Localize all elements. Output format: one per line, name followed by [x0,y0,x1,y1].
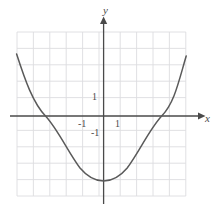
x-tick-label-negative-one: -1 [78,119,86,129]
x-tick-label-positive-one: 1 [115,119,120,129]
y-tick-label-negative-one: -1 [91,128,99,138]
parabola-figure: y x 1 -1 1 -1 [0,0,217,214]
parabola-curve [17,54,187,181]
x-axis [10,112,206,119]
y-axis [100,17,107,205]
graph-canvas [0,0,217,214]
y-axis-arrowhead [100,17,107,25]
y-tick-label-positive-one: 1 [92,92,97,102]
y-axis-label: y [103,5,108,16]
x-axis-label: x [205,113,210,124]
grid-lines [17,32,186,196]
